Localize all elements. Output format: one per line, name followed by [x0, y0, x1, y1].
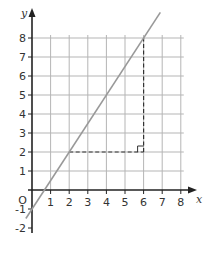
y-tick-label: 7	[19, 51, 26, 64]
y-tick-label: 2	[19, 146, 26, 159]
y-tick-label: 1	[19, 165, 26, 178]
x-tick-label: 8	[177, 196, 184, 209]
chart: 12345678-2-112345678Oxy	[0, 0, 210, 253]
grid	[32, 35, 184, 190]
x-tick-label: 4	[103, 196, 110, 209]
x-tick-label: 5	[122, 196, 129, 209]
x-axis-label: x	[196, 193, 203, 206]
y-tick-label: 6	[19, 70, 26, 83]
y-tick-label: 3	[19, 127, 26, 140]
x-tick-label: 1	[47, 196, 54, 209]
y-axis-label: y	[20, 7, 28, 20]
y-axis-arrow-icon	[29, 8, 36, 17]
x-tick-label: 7	[159, 196, 166, 209]
y-tick-label: 8	[19, 32, 26, 45]
x-tick-label: 2	[66, 196, 73, 209]
x-tick-label: 3	[84, 196, 91, 209]
series-line	[26, 12, 160, 218]
y-tick-label: 4	[19, 108, 26, 121]
series-line-segment	[26, 12, 160, 218]
x-tick-label: 6	[140, 196, 147, 209]
right-angle-marker	[138, 146, 144, 152]
y-tick-label: -2	[15, 222, 26, 235]
origin-label: O	[18, 194, 27, 207]
tick-labels: 12345678-2-112345678Oxy	[15, 7, 203, 235]
y-tick-label: 5	[19, 89, 26, 102]
